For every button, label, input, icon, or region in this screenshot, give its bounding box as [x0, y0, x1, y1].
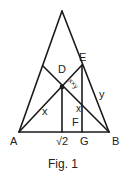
- label-x-left: x: [42, 105, 48, 117]
- label-a: A: [10, 135, 18, 147]
- side-apex-a: [19, 11, 62, 132]
- label-g: G: [80, 135, 89, 147]
- label-b: B: [112, 135, 119, 147]
- triangle-diagram: A B D E F G y x x x×y √2 Fig. 1: [0, 0, 134, 174]
- figure-caption: Fig. 1: [48, 157, 78, 171]
- label-x-right: x: [76, 103, 81, 114]
- label-f: F: [72, 116, 79, 128]
- side-apex-b: [62, 11, 109, 132]
- label-d: D: [58, 63, 66, 75]
- label-y: y: [99, 88, 105, 100]
- label-e: E: [79, 51, 86, 63]
- label-sqrt2: √2: [56, 135, 68, 147]
